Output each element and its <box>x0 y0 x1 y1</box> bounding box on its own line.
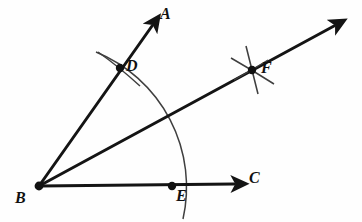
label-point-e: E <box>176 188 187 204</box>
label-point-c: C <box>249 170 260 186</box>
ray-ba <box>39 26 152 186</box>
label-point-b: B <box>15 190 26 206</box>
ray-bf-bisector <box>39 26 334 186</box>
geometry-figure: A B C D E F <box>0 0 362 222</box>
label-point-d: D <box>126 58 138 74</box>
point-dot-e <box>168 182 176 190</box>
ray-bc <box>39 184 234 186</box>
label-point-a: A <box>160 6 171 22</box>
main-compass-arc <box>96 52 187 219</box>
point-dot-f <box>248 66 256 74</box>
point-dot-b <box>35 182 44 191</box>
point-dot-d <box>116 64 124 72</box>
label-point-f: F <box>261 60 272 76</box>
